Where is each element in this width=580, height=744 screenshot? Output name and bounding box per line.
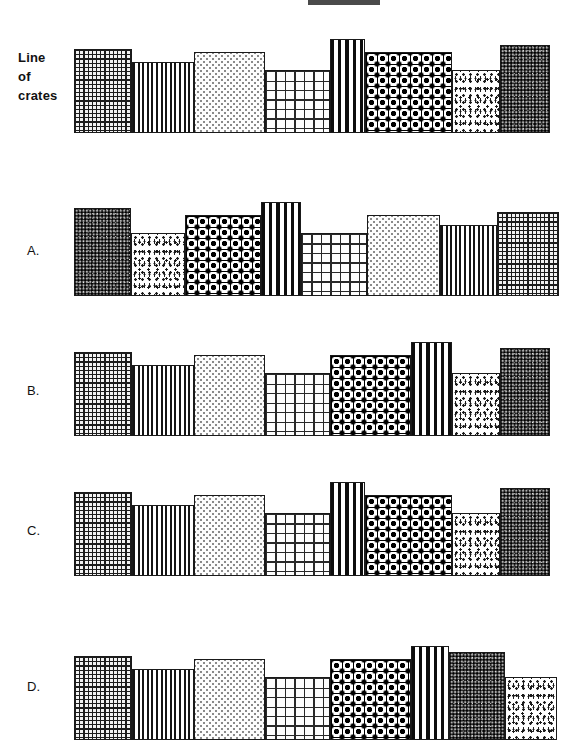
crate-option-a-6-light-dots[interactable] [367,215,440,296]
crate-strip-option-c [0,466,580,576]
crate-option-b-5-diamond[interactable] [330,355,411,436]
crate-reference-3-light-dots[interactable] [194,52,265,133]
crate-option-b-7-medium-dots[interactable] [452,373,500,436]
crate-option-b-4-coarse-grid[interactable] [265,373,330,436]
crate-option-a-4-vstripe-bold[interactable] [261,202,301,296]
crate-option-d-6-vstripe-bold[interactable] [411,646,449,740]
header-rule [308,0,380,5]
crate-reference-7-medium-dots[interactable] [452,70,500,133]
crate-option-c-7-medium-dots[interactable] [452,513,500,576]
crate-option-a-7-vstripe-thin[interactable] [440,225,497,296]
crate-option-d-2-vstripe-thin[interactable] [132,669,194,740]
crate-strip-option-a [0,186,580,296]
crate-option-a-8-fine-grid[interactable] [497,212,559,296]
crate-option-c-8-dark-dense[interactable] [500,488,550,576]
crate-row-option-c: C. [0,466,580,576]
crate-row-reference: Line of crates [0,33,580,133]
crate-strip-option-d [0,622,580,740]
crate-option-d-7-dark-dense[interactable] [449,652,505,740]
crate-reference-6-diamond[interactable] [365,52,452,133]
crate-option-c-3-light-dots[interactable] [194,495,265,576]
crate-reference-8-dark-dense[interactable] [500,45,550,133]
crate-option-b-6-vstripe-bold[interactable] [411,342,452,436]
crate-option-d-3-light-dots[interactable] [194,659,265,740]
crate-option-c-6-diamond[interactable] [365,495,452,576]
crate-option-c-2-vstripe-thin[interactable] [132,505,194,576]
crate-option-c-1-fine-grid[interactable] [74,492,132,576]
crate-option-d-5-diamond[interactable] [330,659,411,740]
crate-option-d-8-medium-dots[interactable] [505,677,557,740]
crate-option-d-4-coarse-grid[interactable] [265,677,330,740]
crate-option-c-5-vstripe-bold[interactable] [330,482,365,576]
crate-option-a-2-medium-dots[interactable] [131,233,185,296]
crate-row-option-b: B. [0,326,580,436]
crate-reference-1-fine-grid[interactable] [74,49,132,133]
crate-reference-5-vstripe-bold[interactable] [330,39,365,133]
crate-row-option-d: D. [0,622,580,740]
crate-option-b-1-fine-grid[interactable] [74,352,132,436]
crate-strip-reference [0,33,580,133]
crate-option-a-5-coarse-grid[interactable] [301,233,367,296]
crate-reference-2-vstripe-thin[interactable] [132,62,194,133]
crate-option-b-8-dark-dense[interactable] [500,348,550,436]
crate-reference-4-coarse-grid[interactable] [265,70,330,133]
crate-strip-option-b [0,326,580,436]
crate-option-a-1-dark-dense[interactable] [74,208,131,296]
crate-row-option-a: A. [0,186,580,296]
crate-option-c-4-coarse-grid[interactable] [265,513,330,576]
crate-option-a-3-diamond[interactable] [185,215,261,296]
crate-option-b-3-light-dots[interactable] [194,355,265,436]
crate-option-b-2-vstripe-thin[interactable] [132,365,194,436]
crate-option-d-1-fine-grid[interactable] [74,656,132,740]
